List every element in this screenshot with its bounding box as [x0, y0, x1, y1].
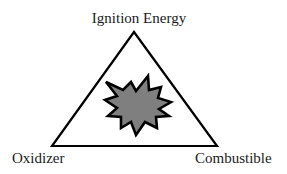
vertex-label-oxidizer: Oxidizer [12, 150, 64, 166]
diagram-graphic [0, 0, 287, 174]
fire-triangle-diagram: Ignition Energy Oxidizer Combustible [0, 0, 287, 174]
explosion-burst-icon [105, 76, 171, 135]
vertex-label-combustible: Combustible [195, 150, 272, 166]
vertex-label-ignition-energy: Ignition Energy [90, 10, 188, 26]
